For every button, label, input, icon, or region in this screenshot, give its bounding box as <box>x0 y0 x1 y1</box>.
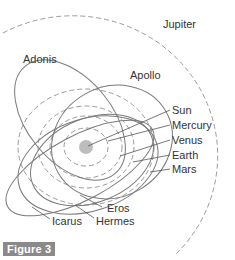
mars-label: Mars <box>172 163 197 175</box>
earth-label: Earth <box>172 149 198 161</box>
mercury-label: Mercury <box>172 119 212 131</box>
orbit-diagram: Jupiter Adonis Apollo Sun Mercury Venus … <box>0 0 235 260</box>
hermes-label: Hermes <box>96 215 135 227</box>
venus-label: Venus <box>172 134 203 146</box>
eros-label: Eros <box>107 202 130 214</box>
icarus-label: Icarus <box>52 215 82 227</box>
apollo-label: Apollo <box>130 69 161 81</box>
sun-label: Sun <box>172 104 192 116</box>
earth-leader <box>133 155 170 162</box>
adonis-label: Adonis <box>23 53 57 65</box>
venus-leader <box>120 140 170 156</box>
jupiter-label: Jupiter <box>163 18 196 30</box>
asteroid-orbits <box>0 39 193 234</box>
hermes-orbit <box>5 99 170 231</box>
figure-caption: Figure 3 <box>3 242 55 256</box>
sun-icon <box>79 140 93 154</box>
